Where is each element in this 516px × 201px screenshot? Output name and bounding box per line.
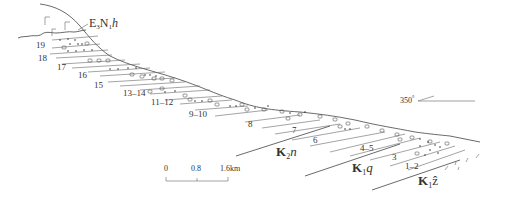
layer-label-6: 6 [313, 135, 318, 145]
layer-label-9-10: 9–10 [189, 109, 208, 119]
svg-text:350°: 350° [400, 95, 415, 105]
layer-label-11-12: 11–12 [151, 97, 173, 107]
layer-label-15: 15 [94, 80, 104, 90]
scale-tick-1-6km: 1.6km [220, 164, 241, 173]
formation-label-e3n1h: E3N1h [89, 16, 118, 31]
layer-label-7: 7 [292, 125, 297, 135]
scale-tick-0-8: 0.8 [191, 164, 201, 173]
scale-tick-0: 0 [164, 164, 168, 173]
layer-label-3: 3 [392, 152, 397, 162]
orientation-arrow [418, 96, 434, 101]
orientation-indicator: 350° [400, 95, 475, 105]
layer-label-16: 16 [78, 70, 88, 80]
layer-label-18: 18 [38, 53, 48, 63]
layer-labels: 19 18 17 16 15 13–14 11–12 9–10 8 7 6 4–… [36, 40, 419, 171]
layer-label-17: 17 [57, 62, 67, 72]
layer-label-4-5: 4–5 [360, 143, 374, 153]
layer-label-8: 8 [248, 119, 253, 129]
formation-label-k1q: K1q [352, 160, 373, 177]
pebble-symbols [62, 42, 449, 155]
layer-label-19: 19 [36, 40, 46, 50]
sand-dot-symbols [59, 38, 441, 156]
basement-symbols [445, 154, 479, 170]
scale-bar: 0 0.8 1.6km [164, 164, 241, 181]
cross-section-diagram: E3N1h [0, 0, 516, 201]
layer-label-13-14: 13–14 [123, 88, 146, 98]
layer-label-1-2: 1–2 [405, 161, 419, 171]
formation-label-k1z: K1ẑ [418, 173, 438, 190]
formation-label-k2n: K2n [276, 144, 297, 161]
